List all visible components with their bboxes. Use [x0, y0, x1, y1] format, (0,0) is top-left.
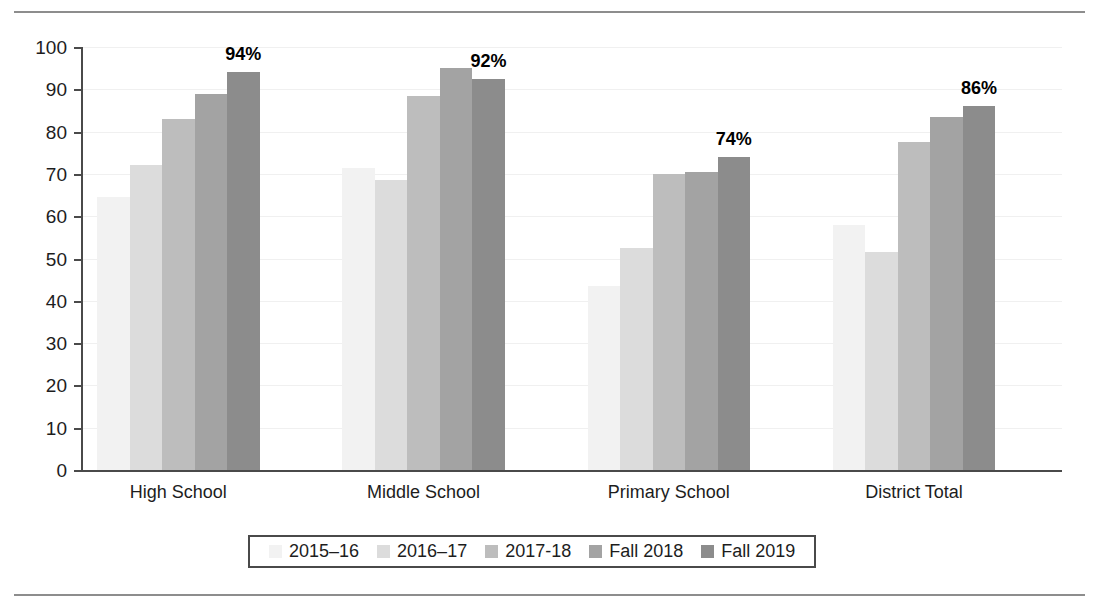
y-axis-tick-mark [74, 343, 81, 345]
bar-value-label: 92% [439, 51, 539, 72]
page-rule-top [14, 11, 1085, 13]
x-axis-category-label: Primary School [559, 482, 779, 503]
legend-swatch-icon [701, 545, 714, 558]
page-rule-bottom [14, 594, 1085, 596]
bar [620, 248, 653, 470]
y-axis-tick-mark [74, 301, 81, 303]
y-axis-tick-label: 100 [35, 37, 67, 59]
y-axis-tick-label: 40 [46, 291, 67, 313]
plot-frame: 0102030405060708090100 [81, 47, 1062, 470]
bar-value-label: 74% [684, 129, 784, 150]
bar [375, 180, 408, 470]
y-axis-line [81, 47, 83, 470]
bar [588, 286, 621, 470]
legend-label: 2017-18 [505, 541, 571, 562]
bar [833, 225, 866, 470]
y-axis-tick-label: 10 [46, 418, 67, 440]
bar [930, 117, 963, 470]
bar [440, 68, 473, 470]
legend-item[interactable]: Fall 2018 [580, 541, 692, 562]
y-axis-tick-mark [74, 89, 81, 91]
legend-label: 2016–17 [397, 541, 467, 562]
legend-label: Fall 2018 [609, 541, 683, 562]
y-axis-tick-label: 80 [46, 122, 67, 144]
plot-area: 0102030405060708090100 [81, 47, 1062, 470]
bar [653, 174, 686, 470]
legend-swatch-icon [485, 545, 498, 558]
bar-chart-figure: 0102030405060708090100 94%92%74%86% High… [0, 0, 1099, 607]
bar [162, 119, 195, 470]
legend-label: Fall 2019 [721, 541, 795, 562]
y-axis-tick-mark [74, 428, 81, 430]
y-axis-tick-mark [74, 174, 81, 176]
legend-swatch-icon [589, 545, 602, 558]
legend-swatch-icon [269, 545, 282, 558]
y-axis-tick-label: 60 [46, 206, 67, 228]
legend-item[interactable]: Fall 2019 [692, 541, 804, 562]
y-axis-tick-label: 90 [46, 79, 67, 101]
x-axis-category-label: Middle School [314, 482, 534, 503]
bar [865, 252, 898, 470]
bar-value-label: 94% [193, 44, 293, 65]
bar [718, 157, 751, 470]
y-axis-tick-label: 0 [56, 460, 67, 482]
y-axis-tick-label: 20 [46, 375, 67, 397]
y-axis-tick-mark [74, 216, 81, 218]
bar [195, 94, 228, 470]
y-axis-tick-mark [74, 470, 81, 472]
legend-item[interactable]: 2016–17 [368, 541, 476, 562]
bar [472, 79, 505, 470]
bar [227, 72, 260, 470]
y-axis-tick-label: 70 [46, 164, 67, 186]
bar [685, 172, 718, 470]
x-axis-line [81, 470, 1062, 472]
legend-item[interactable]: 2015–16 [260, 541, 368, 562]
legend-swatch-icon [377, 545, 390, 558]
legend-label: 2015–16 [289, 541, 359, 562]
x-axis-category-label: District Total [804, 482, 1024, 503]
y-axis-tick-mark [74, 385, 81, 387]
y-axis-tick-mark [74, 132, 81, 134]
y-axis-tick-label: 50 [46, 249, 67, 271]
bar [963, 106, 996, 470]
chart-legend: 2015–162016–172017-18Fall 2018Fall 2019 [248, 535, 816, 568]
bar [97, 197, 130, 470]
bar [898, 142, 931, 470]
legend-item[interactable]: 2017-18 [476, 541, 580, 562]
bar [342, 168, 375, 470]
x-axis-category-label: High School [68, 482, 288, 503]
bar-value-label: 86% [929, 78, 1029, 99]
bar [407, 96, 440, 470]
y-axis-tick-mark [74, 259, 81, 261]
y-axis-tick-mark [74, 47, 81, 49]
y-axis-tick-label: 30 [46, 333, 67, 355]
bar [130, 165, 163, 470]
